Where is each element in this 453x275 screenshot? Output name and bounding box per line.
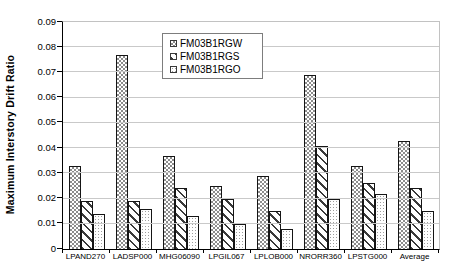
y-tick-label: 0.09 [24, 17, 56, 26]
bar-FM03B1RGW [163, 156, 175, 249]
bar-FM03B1RGO [422, 211, 434, 249]
y-tick-label: 0.03 [24, 168, 56, 177]
x-axis-tick [438, 250, 439, 253]
legend-entry: FM03B1RGW [170, 37, 262, 50]
y-axis-tick [57, 147, 62, 148]
bar-FM03B1RGS [81, 201, 93, 249]
x-axis-labels: LPAND270LADSP000MHG06090LPGIL067LPLOB000… [62, 252, 438, 262]
bar-FM03B1RGO [93, 214, 105, 249]
y-axis-tick [57, 71, 62, 72]
y-tick-label: 0.04 [24, 143, 56, 152]
x-category-label: MHG06090 [156, 252, 203, 262]
y-axis-tick [57, 197, 62, 198]
y-axis-title: Maximum Interstory Drift Ratio [2, 21, 19, 248]
bar-FM03B1RGW [116, 55, 128, 249]
y-axis-tick [57, 172, 62, 173]
legend: FM03B1RGWFM03B1RGSFM03B1RGO [162, 33, 263, 79]
x-category-label: LPSTG000 [344, 252, 391, 262]
y-axis-tick [57, 21, 62, 22]
legend-marker-checker-icon [170, 40, 177, 47]
legend-entry: FM03B1RGS [170, 50, 262, 63]
bar-group [392, 22, 439, 249]
gridline [63, 97, 439, 98]
bar-group [298, 22, 345, 249]
gridline [63, 147, 439, 148]
gridline [63, 122, 439, 123]
legend-label: FM03B1RGO [180, 64, 241, 75]
x-category-label: Average [391, 252, 438, 262]
gridline [63, 223, 439, 224]
y-tick-label: 0.06 [24, 92, 56, 101]
bar-FM03B1RGW [257, 176, 269, 249]
bar-FM03B1RGS [363, 183, 375, 249]
y-tick-label: 0.05 [24, 117, 56, 126]
x-category-label: NRORR360 [297, 252, 344, 262]
y-tick-label: 0 [24, 244, 56, 253]
y-axis-tick [57, 248, 62, 249]
y-tick-label: 0.01 [24, 218, 56, 227]
bar-FM03B1RGO [375, 194, 387, 249]
legend-label: FM03B1RGS [180, 51, 239, 62]
x-category-label: LPLOB000 [250, 252, 297, 262]
bar-FM03B1RGW [398, 141, 410, 249]
y-axis-tick [57, 222, 62, 223]
x-category-label: LPGIL067 [203, 252, 250, 262]
legend-marker-hatch-icon [170, 53, 177, 60]
bar-FM03B1RGO [328, 199, 340, 249]
bar-FM03B1RGO [187, 216, 199, 249]
bar-group [345, 22, 392, 249]
y-tick-label: 0.08 [24, 42, 56, 51]
y-tick-label: 0.07 [24, 67, 56, 76]
bar-FM03B1RGO [281, 229, 293, 249]
bar-FM03B1RGO [140, 209, 152, 249]
gridline [63, 198, 439, 199]
bar-FM03B1RGS [269, 211, 281, 249]
y-axis-tick [57, 121, 62, 122]
x-category-label: LADSP000 [109, 252, 156, 262]
legend-label: FM03B1RGW [180, 38, 242, 49]
bar-FM03B1RGW [210, 186, 222, 249]
y-axis-tick [57, 96, 62, 97]
legend-entry: FM03B1RGO [170, 63, 262, 76]
y-axis-tick [57, 46, 62, 47]
bar-FM03B1RGW [69, 166, 81, 249]
bar-FM03B1RGO [234, 224, 246, 249]
bar-group [63, 22, 110, 249]
bar-chart: Maximum Interstory Drift Ratio 00.010.02… [0, 0, 453, 275]
legend-marker-dots-icon [170, 66, 177, 73]
y-tick-label: 0.02 [24, 193, 56, 202]
x-category-label: LPAND270 [62, 252, 109, 262]
gridline [63, 172, 439, 173]
bar-FM03B1RGS [222, 199, 234, 249]
bar-group [110, 22, 157, 249]
bar-FM03B1RGW [351, 166, 363, 249]
bar-FM03B1RGS [128, 201, 140, 249]
